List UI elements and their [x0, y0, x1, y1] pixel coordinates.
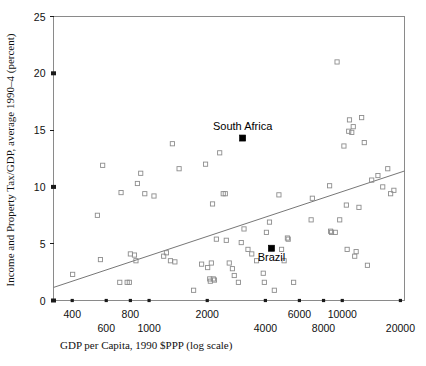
data-point-marker	[347, 118, 351, 122]
data-point-marker	[262, 280, 266, 284]
data-point-marker	[95, 213, 99, 217]
data-point-marker	[351, 125, 355, 129]
data-point-marker	[354, 250, 358, 254]
y-tick-mark	[51, 185, 56, 189]
y-tick-label: 20	[34, 67, 46, 79]
x-tick-mark	[298, 299, 301, 302]
data-point-marker	[357, 205, 361, 209]
data-point-marker	[246, 247, 250, 251]
data-point-marker	[345, 247, 349, 251]
x-tick-label: 8000	[312, 322, 336, 334]
x-tick-label: 20000	[386, 322, 415, 334]
data-point-marker	[214, 237, 218, 241]
data-point-marker	[338, 218, 342, 222]
data-point-marker	[71, 272, 75, 276]
data-point-marker	[310, 196, 314, 200]
data-point-marker	[168, 259, 172, 263]
data-point-marker	[128, 252, 132, 256]
data-point-marker	[353, 254, 357, 258]
data-point-marker	[98, 258, 102, 262]
y-tick-mark	[51, 71, 56, 75]
data-point-marker	[218, 151, 222, 155]
y-tick-label: 10	[34, 181, 46, 193]
x-tick-mark	[71, 299, 74, 302]
data-point-marker	[350, 130, 354, 134]
data-point-marker	[192, 288, 196, 292]
x-tick-label: 6000	[288, 308, 312, 320]
data-point-marker	[264, 230, 268, 234]
y-tick-mark	[51, 299, 56, 303]
data-point-marker	[347, 129, 351, 133]
data-point-marker	[272, 288, 276, 292]
x-tick-label: 600	[97, 322, 115, 334]
x-tick-mark	[322, 299, 325, 302]
x-tick-mark	[264, 299, 267, 302]
x-axis-ticks-group: 400800200060001000060010004000800020000	[63, 299, 415, 334]
point-annotation-label: Brazil	[258, 251, 286, 263]
data-point-marker	[267, 220, 271, 224]
data-point-marker	[236, 280, 240, 284]
data-point-marker	[212, 278, 216, 282]
data-point-marker	[232, 273, 236, 277]
y-axis-title: Income and Property Tax/GDP, average 199…	[4, 33, 17, 286]
y-tick-label: 5	[40, 238, 46, 250]
data-point-marker	[381, 185, 385, 189]
data-point-marker	[152, 194, 156, 198]
data-point-marker	[209, 261, 213, 265]
data-point-marker	[170, 142, 174, 146]
data-point-marker	[143, 192, 147, 196]
x-tick-label: 2000	[196, 308, 220, 320]
data-point-marker	[119, 190, 123, 194]
data-points-group	[71, 60, 396, 293]
data-point-marker	[200, 262, 204, 266]
data-point-marker	[344, 203, 348, 207]
data-point-marker	[242, 227, 246, 231]
x-tick-label: 4000	[254, 322, 278, 334]
x-tick-mark	[129, 299, 132, 302]
data-point-marker	[261, 271, 265, 275]
data-point-marker	[139, 171, 143, 175]
y-tick-label: 15	[34, 124, 46, 136]
data-point-marker	[309, 218, 313, 222]
x-tick-label: 800	[122, 308, 140, 320]
data-point-marker	[292, 280, 296, 284]
regression-line	[54, 171, 405, 287]
x-tick-mark	[147, 299, 150, 302]
data-point-marker	[135, 181, 139, 185]
trendline-group	[54, 171, 405, 287]
data-point-marker	[328, 184, 332, 188]
data-point-marker	[335, 60, 339, 64]
data-point-marker	[239, 240, 243, 244]
data-point-marker	[101, 163, 105, 167]
data-point-marker	[203, 162, 207, 166]
point-annotation-label: South Africa	[213, 120, 273, 132]
data-point-marker	[386, 167, 390, 171]
y-axis-ticks-group: 0510152025	[34, 11, 56, 307]
x-tick-mark	[341, 299, 344, 302]
scatter-chart-figure: Income and Property Tax/GDP, average 199…	[0, 0, 426, 366]
data-point-marker	[230, 267, 234, 271]
data-point-marker	[365, 263, 369, 267]
plot-frame	[54, 17, 405, 301]
data-point-marker	[210, 202, 214, 206]
plot-canvas: Income and Property Tax/GDP, average 199…	[0, 0, 426, 366]
data-point-marker	[277, 193, 281, 197]
x-tick-mark	[206, 299, 209, 302]
data-point-marker	[132, 253, 136, 257]
data-point-marker	[342, 144, 346, 148]
y-tick-label: 25	[34, 11, 46, 23]
x-tick-mark	[105, 299, 108, 302]
x-tick-label: 1000	[137, 322, 161, 334]
data-point-marker	[362, 140, 366, 144]
data-point-marker	[173, 260, 177, 264]
highlighted-point-marker	[240, 135, 246, 141]
x-axis-title: GDP per Capita, 1990 $PPP (log scale)	[60, 339, 233, 352]
data-point-marker	[224, 238, 228, 242]
data-point-marker	[227, 261, 231, 265]
x-tick-label: 10000	[328, 308, 357, 320]
data-point-marker	[360, 116, 364, 120]
data-point-marker	[250, 252, 254, 256]
data-point-marker	[376, 173, 380, 177]
data-point-marker	[177, 167, 181, 171]
data-point-marker	[206, 265, 210, 269]
